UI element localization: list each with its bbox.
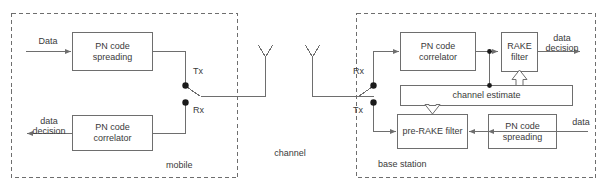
mobile-rx-path [153, 103, 186, 134]
mobile-region-label: mobile [166, 160, 193, 170]
mobile-spreading-label-line1: PN code [73, 41, 152, 51]
mobile-rx-label: Rx [193, 105, 204, 115]
base-tx-label: Tx [353, 105, 363, 115]
mobile-correlator-label-line2: correlator [73, 133, 152, 143]
base-rake-label-line2: filter [502, 52, 537, 62]
base-data-input-label: data [563, 117, 599, 127]
base-tx-contact-dot [370, 99, 376, 105]
mobile-output-label-line1: data [27, 116, 71, 126]
base-correlator-label-line1: PN code [401, 41, 475, 51]
base-antenna-feed [313, 57, 374, 97]
mobile-antenna-vee [259, 46, 273, 58]
base-antenna-vee [306, 46, 320, 58]
base-spreading-label-line2: spreading [489, 132, 556, 142]
mobile-correlator-label-line1: PN code [73, 122, 152, 132]
base-channel-estimate-junction-dot [487, 83, 492, 88]
base-correlator-junction-dot [487, 49, 492, 54]
base-output-label-line2: decision [540, 43, 584, 53]
channel-estimate-to-rake-block-arrow [512, 70, 527, 86]
base-output-label-line1: data [540, 33, 584, 43]
mobile-antenna-feed [201, 57, 266, 97]
diagram-canvas: Data PN code spreading PN code correlato… [0, 0, 608, 192]
base-station-region-label: base station [378, 159, 427, 169]
base-prerake-label: pre-RAKE filter [398, 126, 467, 136]
channel-region-label: channel [268, 148, 312, 158]
base-rake-label-line1: RAKE [502, 41, 537, 51]
channel-estimate-to-prerake-block-arrow [425, 105, 440, 115]
base-rx-label: Rx [353, 66, 364, 76]
mobile-tx-label: Tx [193, 66, 203, 76]
base-correlator-label-line2: correlator [401, 52, 475, 62]
base-channel-estimate-label: channel estimate [401, 90, 572, 100]
base-rx-contact-dot [370, 82, 376, 88]
base-rx-path [374, 52, 400, 86]
mobile-data-input-label: Data [26, 36, 70, 46]
base-spreading-label-line1: PN code [489, 121, 556, 131]
mobile-output-label-line2: decision [27, 126, 71, 136]
mobile-rx-contact-dot [182, 99, 188, 105]
base-tx-path [374, 103, 397, 132]
mobile-tx-contact-dot [182, 82, 188, 88]
mobile-tx-path [153, 52, 186, 86]
mobile-spreading-label-line2: spreading [73, 52, 152, 62]
